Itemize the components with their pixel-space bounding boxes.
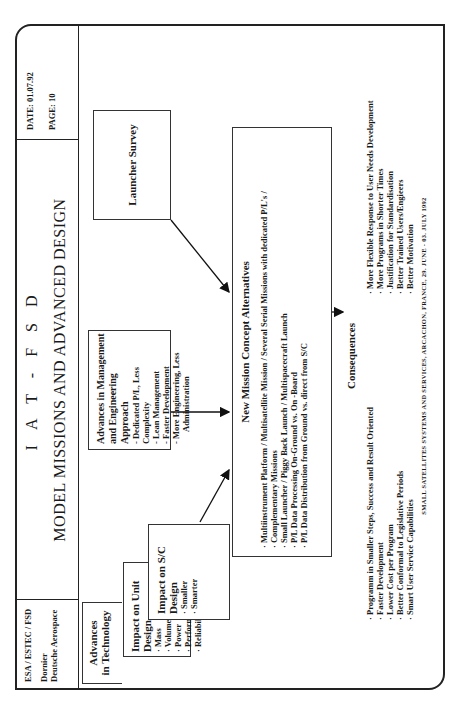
org-company: Dornier <box>39 604 49 682</box>
consequences-title: Consequences <box>345 0 357 712</box>
document-date: DATE: 01.07.92 <box>25 26 35 130</box>
list-item: Smaller <box>179 525 189 614</box>
list-item: Complementary Missions <box>269 128 279 548</box>
date-page-block: DATE: 01.07.92 PAGE: 10 <box>17 26 78 140</box>
list-item: Smarter <box>189 525 199 614</box>
document-page: ESA / ESTEC / FSD Dornier Deutsche Aeros… <box>0 0 457 712</box>
page-subtitle: MODEL MISSIONS AND ADVANCED DESIGN <box>51 140 69 600</box>
list-item: Smart User Service Capabilities <box>405 370 415 620</box>
list-item: Better Motivation <box>405 34 415 294</box>
list-item: Faster Development <box>161 331 171 444</box>
launcher-survey-title: Launcher Survey <box>126 124 138 205</box>
sc-design-box: Impact on S/C Design Smaller Smarter <box>148 524 230 620</box>
mission-concept-title: New Mission Concept Alternatives <box>239 128 251 548</box>
consequences-left-list: Programm in Smaller Steps, Success and R… <box>365 370 415 620</box>
management-box: Advances in Management and Engineering A… <box>88 330 171 450</box>
title-block: I A T - F S D MODEL MISSIONS AND ADVANCE… <box>17 140 78 600</box>
list-item: Programm in Smaller Steps, Success and R… <box>365 370 375 620</box>
org-agency: ESA / ESTEC / FSD <box>23 604 33 682</box>
consequences-right-list: More Flexible Response to User Needs Dev… <box>365 34 415 294</box>
list-item-continuation: Administration <box>181 331 191 444</box>
list-item: P/L Data Processing On-Ground vs. On -Bo… <box>289 128 299 548</box>
page-footer: SMALL SATELLITES SYSTEMS AND SERVICES, A… <box>420 0 427 712</box>
list-item: Faster Development <box>375 370 385 620</box>
list-item: Lean Management <box>151 331 161 444</box>
org-company-sub: Deutsche Aerospace <box>49 604 59 682</box>
list-item: More Programs in Shorter Times <box>375 34 385 294</box>
list-item: Justification for Standardisation <box>385 34 395 294</box>
list-item: Dedicated P/L, Less Complexity <box>131 331 151 444</box>
list-item: Small Launcher / Piggy Back Launch / Mul… <box>279 128 289 548</box>
list-item: Lower Cost per Program <box>385 370 395 620</box>
list-item: More Flexible Response to User Needs Dev… <box>365 34 375 294</box>
management-title: Advances in Management <box>95 331 107 444</box>
list-item: P/L Data Distribution from Ground vs. di… <box>299 128 309 548</box>
technology-title-2: in Technology <box>99 603 111 683</box>
technology-title: Advances <box>87 603 99 683</box>
list-item: Better Trained Users/Engieers <box>395 34 405 294</box>
page-number: PAGE: 10 <box>47 26 57 130</box>
page-title: I A T - F S D <box>23 140 41 600</box>
organization-block: ESA / ESTEC / FSD Dornier Deutsche Aeros… <box>17 600 78 688</box>
list-item: Multiinstrument Platform / Multisatellit… <box>259 128 269 548</box>
technology-box: Advances in Technology <box>82 602 122 684</box>
management-title-2: and Engineering Approach <box>107 331 131 444</box>
list-item: Better Conformal to Legislative Periods <box>395 370 405 620</box>
header-divider <box>78 24 79 690</box>
sc-design-title: Impact on S/C Design <box>155 525 179 614</box>
mission-concept-box: New Mission Concept Alternatives Multiin… <box>232 127 332 557</box>
list-item: More Engineering, Less <box>171 331 181 444</box>
launcher-survey-box: Launcher Survey <box>93 110 171 220</box>
